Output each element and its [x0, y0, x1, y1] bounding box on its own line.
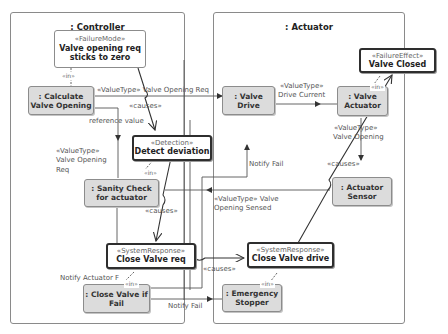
drive-current-label-line2: Drive Current — [278, 91, 325, 100]
actuator-sensor-node[interactable]: : Actuator Sensor — [332, 177, 392, 206]
close-valve-drive-node[interactable]: «SystemResponse» Close Valve drive — [247, 242, 334, 268]
valve-drive-node[interactable]: : Valve Drive — [222, 86, 275, 115]
opening-sensed-label-line2: Opening Sensed — [214, 204, 271, 213]
valve-actuator-node[interactable]: : Valve Actuator — [337, 86, 388, 116]
detect-deviation-stereotype: «Detection» — [151, 139, 193, 147]
in-label-valve-closed: «in» — [370, 83, 385, 91]
close-valve-if-fail-line1: : Close Valve if — [85, 290, 147, 299]
valuetype-valve-opening-req-label-line1: «ValueType» — [56, 147, 99, 156]
sanity-check-line2: for actuator — [96, 193, 147, 202]
emergency-stopper-node[interactable]: : Emergency Stopper — [222, 284, 282, 312]
emergency-stopper-line2: Stopper — [235, 298, 269, 307]
drive-current-label-line1: «ValueType» — [280, 82, 323, 91]
close-valve-drive-name: Close Valve drive — [252, 254, 329, 264]
causes-label-2: «causes» — [145, 207, 178, 216]
opening-sensed-label-line1: «ValueType» Valve — [214, 195, 279, 204]
calculate-valve-opening-line2: Valve Opening — [30, 101, 91, 110]
close-valve-req-stereotype: «SystemResponse» — [117, 247, 185, 255]
valuetype-valve-opening-req-label-line2: Valve Opening — [56, 156, 107, 165]
notify-fail-stopper-label: Notify Fail — [168, 302, 202, 311]
valve-opening-req-flow-label: «ValueType» Valve Opening Req — [97, 86, 209, 95]
failure-mode-stereotype: «FailureMode» — [75, 35, 126, 43]
causes-label-1: «causes» — [129, 102, 162, 111]
notify-fail-drive-label: Notify Fail — [249, 160, 283, 169]
actuator-sensor-line2: Sensor — [347, 192, 376, 201]
notify-actuator-fail-label: Notify Actuator F — [60, 274, 119, 283]
failure-mode-name-line2: sticks to zero — [70, 53, 131, 63]
valve-opening-label-line1: «ValueType» — [334, 124, 377, 133]
valve-closed-node[interactable]: «FailureEffect» Valve Closed — [359, 48, 436, 73]
valve-opening-label-line2: Valve Opening — [333, 133, 384, 142]
causes-label-3: «causes» — [327, 160, 360, 169]
detect-deviation-name: Detect deviation — [135, 147, 210, 157]
calculate-valve-opening-line1: : Calculate — [39, 92, 84, 101]
failure-mode-name-line1: Valve opening req — [59, 44, 141, 54]
sanity-check-line1: : Sanity Check — [91, 184, 151, 193]
in-label-detect: «in» — [143, 169, 158, 177]
valve-drive-line1: : Valve — [234, 92, 263, 101]
valve-drive-line2: Drive — [237, 101, 259, 110]
causes-label-4: «causes» — [203, 265, 236, 274]
calculate-valve-opening-node[interactable]: : Calculate Valve Opening — [28, 86, 94, 115]
actuator-sensor-line1: : Actuator — [341, 183, 383, 192]
in-label-failure-mode: «in» — [61, 72, 76, 80]
valve-closed-stereotype: «FailureEffect» — [372, 52, 424, 60]
close-valve-req-node[interactable]: «SystemResponse» Close Valve req — [106, 243, 196, 269]
detect-deviation-node[interactable]: «Detection» Detect deviation — [132, 135, 212, 161]
valuetype-valve-opening-req-label-line3: Req — [56, 166, 69, 175]
failure-mode-node[interactable]: «FailureMode» Valve opening req sticks t… — [54, 30, 146, 68]
reference-value-label: reference value — [89, 117, 144, 126]
close-valve-drive-stereotype: «SystemResponse» — [256, 246, 324, 254]
sanity-check-node[interactable]: : Sanity Check for actuator — [84, 179, 159, 207]
in-label-close-valve-if-fail: «in» — [124, 280, 139, 288]
in-label-emergency: «in» — [260, 280, 275, 288]
emergency-stopper-line1: : Emergency — [226, 289, 278, 298]
causes-close-req-to-close-drive — [196, 258, 244, 260]
valve-closed-name: Valve Closed — [369, 60, 426, 70]
close-valve-req-name: Close Valve req — [116, 255, 186, 265]
close-valve-if-fail-node[interactable]: : Close Valve if Fail — [83, 284, 150, 313]
close-valve-if-fail-line2: Fail — [109, 299, 124, 308]
valve-actuator-line2: Actuator — [344, 101, 381, 110]
valve-actuator-line1: : Valve — [348, 92, 377, 101]
